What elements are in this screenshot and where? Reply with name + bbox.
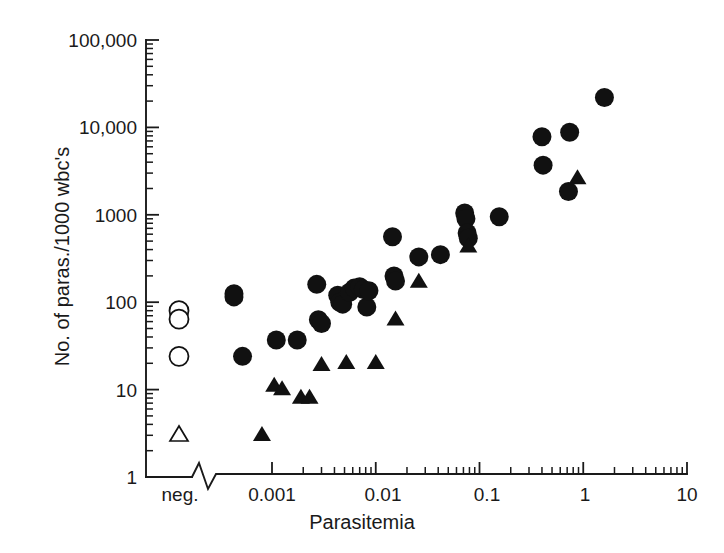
y-tick-label: 100	[105, 293, 137, 312]
data-point-filled-triangle	[367, 354, 385, 369]
data-markers-group	[170, 88, 614, 441]
data-point-open-circle	[170, 347, 189, 366]
y-tick-label: 10,000	[79, 118, 137, 137]
data-point-filled-circle	[386, 271, 405, 290]
y-axis-title: No. of paras./1000 wbc's	[51, 107, 74, 407]
data-point-filled-triangle	[410, 273, 428, 288]
data-point-filled-circle	[307, 275, 326, 294]
data-point-filled-circle	[431, 245, 450, 264]
data-point-filled-circle	[383, 227, 402, 246]
data-point-filled-circle	[560, 123, 579, 142]
data-point-filled-circle	[224, 287, 243, 306]
y-tick-label: 1	[126, 468, 137, 487]
data-point-filled-circle	[233, 347, 252, 366]
data-point-open-circle	[170, 310, 189, 329]
data-point-filled-triangle	[568, 169, 586, 184]
y-tick-label: 100,000	[68, 31, 137, 50]
data-point-filled-circle	[357, 298, 376, 317]
data-point-open-triangle	[170, 426, 188, 441]
x-tick-label: 0.01	[365, 485, 402, 504]
data-point-filled-triangle	[253, 426, 271, 441]
y-tick-label: 10	[116, 381, 137, 400]
data-point-filled-circle	[288, 330, 307, 349]
x-tick-label: 0.1	[474, 485, 500, 504]
x-tick-label: neg.	[162, 485, 199, 504]
x-tick-label: 0.001	[248, 485, 296, 504]
data-point-filled-triangle	[313, 356, 331, 371]
data-point-filled-triangle	[337, 354, 355, 369]
data-point-filled-circle	[532, 127, 551, 146]
scatter-plot-figure: 100,00010,0001000100101 neg.0.0010.010.1…	[0, 0, 724, 553]
data-point-filled-circle	[267, 330, 286, 349]
data-point-filled-circle	[312, 314, 331, 333]
plot-canvas	[0, 0, 724, 553]
data-point-filled-circle	[595, 88, 614, 107]
data-point-filled-circle	[534, 156, 553, 175]
x-tick-label: 1	[580, 485, 591, 504]
data-point-filled-circle	[409, 247, 428, 266]
x-tick-label: 10	[676, 485, 697, 504]
data-point-filled-circle	[359, 281, 378, 300]
y-tick-label: 1000	[95, 206, 137, 225]
x-axis-title: Parasitemia	[0, 511, 724, 534]
data-point-filled-circle	[490, 207, 509, 226]
data-point-filled-circle	[559, 182, 578, 201]
data-point-filled-triangle	[387, 310, 405, 325]
